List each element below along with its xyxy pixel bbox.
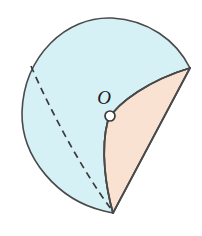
center-point-label: O <box>97 87 111 108</box>
geometry-canvas: O <box>0 0 202 236</box>
center-point-marker <box>105 111 115 121</box>
geometry-figure: O <box>0 0 202 236</box>
